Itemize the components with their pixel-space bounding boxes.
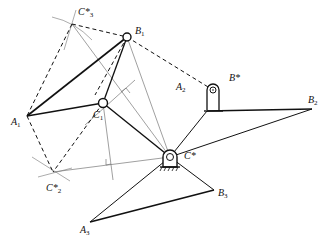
dash-c3-a1 bbox=[27, 24, 72, 116]
label-a1: A1 bbox=[11, 117, 21, 129]
dash-b1-bstar bbox=[127, 37, 213, 90]
label-cstar: C* bbox=[184, 151, 196, 161]
label-c1: C1 bbox=[93, 110, 103, 122]
arc-c3 bbox=[52, 17, 92, 40]
label-b3: B3 bbox=[218, 188, 228, 200]
link-a1-c1 bbox=[27, 103, 103, 116]
dash-a1-c2 bbox=[27, 116, 53, 172]
arc-c2 bbox=[32, 157, 70, 181]
label-c2star: C*2 bbox=[46, 183, 61, 195]
label-b1: B1 bbox=[135, 26, 145, 38]
label-b2: B2 bbox=[308, 95, 318, 107]
label-bstar: B* bbox=[229, 73, 240, 83]
label-a2: A2 bbox=[176, 82, 186, 94]
diagram-canvas: C*3 B1 A1 C1 A2 B* B2 C* C*2 B3 A3 bbox=[0, 0, 328, 241]
joint-b1 bbox=[123, 33, 131, 41]
dash-b1-c1 bbox=[95, 37, 127, 95]
label-a3: A3 bbox=[80, 225, 90, 237]
linkage-diagram bbox=[0, 0, 328, 241]
link-a3-b3 bbox=[90, 190, 214, 222]
label-c3star: C*3 bbox=[78, 7, 93, 19]
pivot-bstar bbox=[204, 84, 223, 111]
pivot-cstar bbox=[160, 150, 180, 171]
bisector-c3-cstar bbox=[72, 24, 170, 157]
bisector-lower bbox=[103, 103, 113, 180]
joint-c1 bbox=[99, 99, 108, 108]
